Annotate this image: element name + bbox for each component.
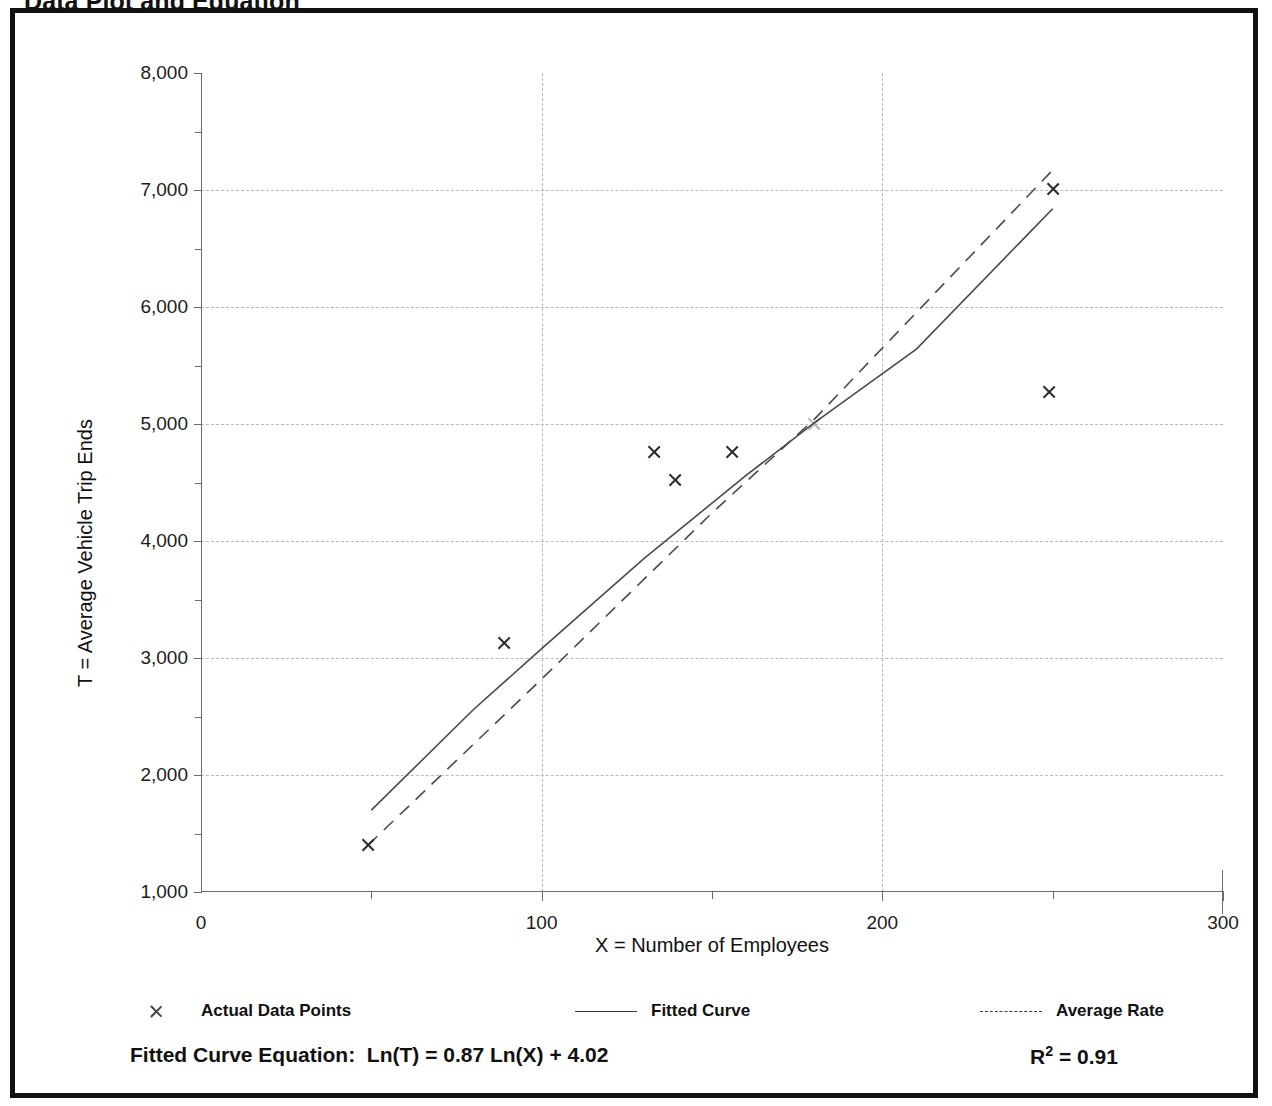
y-tick-label: 8,000 [140,62,188,84]
y-tick-label: 5,000 [140,413,188,435]
y-tick-label: 3,000 [140,647,188,669]
data-point-marker [667,472,683,488]
plot-area: 1,0002,0003,0004,0005,0006,0007,0008,000… [201,73,1223,892]
x-tick-minor [1053,891,1054,899]
x-axis-title: X = Number of Employees [201,934,1223,957]
data-point-marker [496,635,512,651]
chart-inner: T = Average Vehicle Trip Ends X = Number… [15,13,1253,1093]
x-tick-label: 200 [866,912,898,934]
x-marker-icon [125,1003,187,1019]
data-point-marker [806,416,822,432]
solid-line-glyph [575,1011,637,1012]
legend-item-label: Average Rate [1056,1001,1164,1021]
x-tick-label: 100 [526,912,558,934]
data-point-marker [1041,384,1057,400]
data-point-marker [646,444,662,460]
y-tick-label: 2,000 [140,764,188,786]
y-tick-label: 1,000 [140,881,188,903]
rsq-symbol: R [1030,1045,1045,1068]
dashed-line-icon [980,1003,1042,1019]
x-marker-glyph [149,1004,164,1019]
data-point-marker [724,444,740,460]
x-tick-major [1223,891,1224,901]
y-tick-label: 4,000 [140,530,188,552]
legend-item-label: Actual Data Points [201,1001,351,1021]
equation-row: Fitted Curve Equation: Ln(T) = 0.87 Ln(X… [15,1043,1253,1077]
rsq-exponent: 2 [1045,1043,1053,1059]
y-tick-major [194,892,202,893]
solid-line-icon [575,1003,637,1019]
fitted-curve-equation: Fitted Curve Equation: Ln(T) = 0.87 Ln(X… [130,1043,608,1067]
y-tick-label: 7,000 [140,179,188,201]
x-tick-major [542,891,543,901]
dashed-line-glyph [980,1011,1042,1012]
equation-prefix: Fitted Curve Equation: [130,1043,355,1066]
r-squared-value: R2 = 0.91 [1030,1043,1118,1069]
chart-legend: Actual Data PointsFitted CurveAverage Ra… [15,1001,1253,1031]
x-tick-minor [371,891,372,899]
data-point-marker [1045,181,1061,197]
x-tick-minor [712,891,713,899]
y-tick-label: 6,000 [140,296,188,318]
x-tick-major [882,891,883,901]
rsq-number: = 0.91 [1059,1045,1118,1068]
legend-item[interactable]: Actual Data Points [125,1001,351,1021]
fitted-curve-line [371,209,1052,810]
x-tick-label: 0 [196,912,207,934]
average-rate-line [368,170,1053,845]
y-axis-title: T = Average Vehicle Trip Ends [74,419,97,687]
series-lines [201,73,1223,892]
x-tick-label: 300 [1207,912,1239,934]
legend-item[interactable]: Average Rate [980,1001,1164,1021]
chart-frame: T = Average Vehicle Trip Ends X = Number… [10,8,1258,1098]
equation-formula: Ln(T) = 0.87 Ln(X) + 4.02 [367,1043,609,1066]
legend-item[interactable]: Fitted Curve [575,1001,750,1021]
legend-item-label: Fitted Curve [651,1001,750,1021]
data-point-marker [360,837,376,853]
